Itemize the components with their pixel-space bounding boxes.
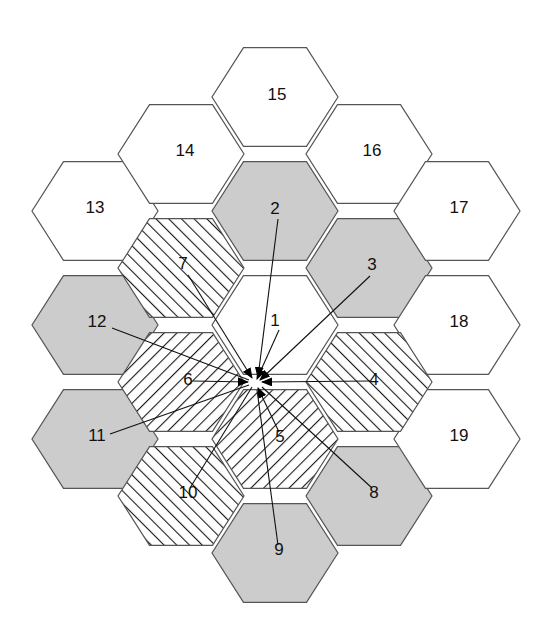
hex-label-7: 7 bbox=[178, 254, 187, 273]
hex-label-12: 12 bbox=[88, 312, 107, 331]
hex-diagram-canvas: 12345678910111213141516171819 bbox=[0, 0, 558, 640]
hex-label-13: 13 bbox=[86, 198, 105, 217]
hex-label-15: 15 bbox=[268, 85, 287, 104]
hex-label-5: 5 bbox=[275, 427, 284, 446]
hex-label-1: 1 bbox=[270, 311, 279, 330]
hex-label-14: 14 bbox=[176, 141, 195, 160]
hex-label-16: 16 bbox=[363, 141, 382, 160]
hex-label-2: 2 bbox=[270, 199, 279, 218]
hex-cluster-diagram: 12345678910111213141516171819 bbox=[0, 0, 558, 640]
hex-label-3: 3 bbox=[367, 255, 376, 274]
hex-label-11: 11 bbox=[88, 426, 106, 445]
hex-label-18: 18 bbox=[450, 312, 469, 331]
hex-label-8: 8 bbox=[369, 483, 378, 502]
hex-label-17: 17 bbox=[450, 198, 469, 217]
hex-label-9: 9 bbox=[274, 540, 283, 559]
hex-label-4: 4 bbox=[369, 370, 378, 389]
hex-label-6: 6 bbox=[183, 370, 192, 389]
hex-label-10: 10 bbox=[179, 483, 198, 502]
hex-label-19: 19 bbox=[450, 426, 469, 445]
